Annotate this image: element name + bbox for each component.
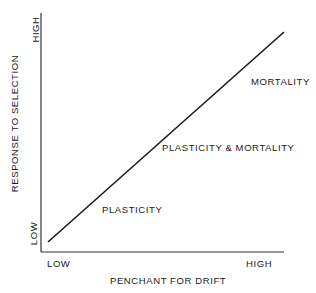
region-label-mortality: MORTALITY (251, 76, 310, 87)
y-axis-title: RESPONSE TO SELECTION (9, 54, 20, 194)
x-axis-title: PENCHANT FOR DRIFT (110, 275, 226, 286)
region-label-plasticity-mortality: PLASTICITY & MORTALITY (162, 142, 295, 153)
region-label-plasticity: PLASTICITY (102, 204, 162, 215)
x-axis-low-label: LOW (47, 258, 70, 269)
y-axis-high-label: HIGH (30, 15, 41, 45)
x-axis-high-label: HIGH (246, 258, 272, 269)
trend-line (48, 32, 284, 242)
y-axis-low-label: LOW (28, 219, 39, 249)
